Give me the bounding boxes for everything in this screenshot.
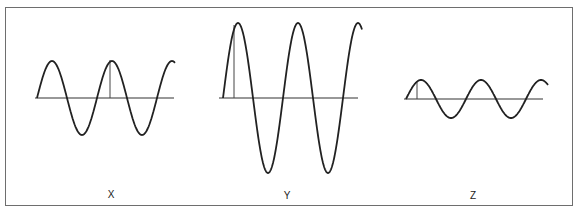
wave-x: [35, 60, 175, 135]
label-z: Z: [470, 190, 476, 201]
label-x: X: [108, 189, 115, 200]
wave-z: [404, 80, 548, 118]
wave-y: [219, 23, 362, 173]
label-y: Y: [284, 190, 291, 201]
waves-canvas: [0, 0, 582, 216]
